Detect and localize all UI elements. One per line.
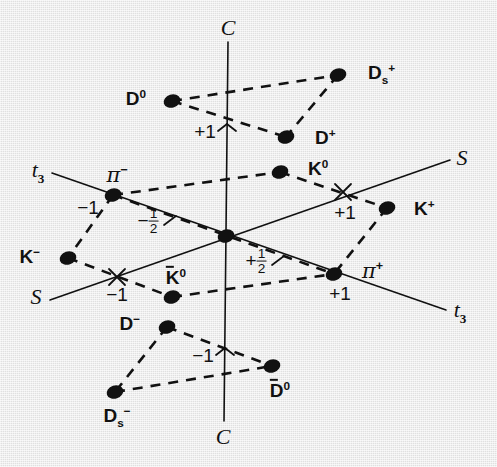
dashed-link-D--to-Ds-	[115, 327, 167, 392]
tick-label-s-minus-1: −1	[106, 285, 128, 304]
state-dot-K-[interactable]	[58, 249, 78, 267]
axis-end-label-s-left: S	[31, 286, 42, 308]
particle-label-K+: K+	[414, 198, 435, 218]
tick-label-t3-plus-1: +1	[329, 284, 351, 303]
state-dot-D+[interactable]	[276, 128, 296, 146]
state-dot-D0bar[interactable]	[262, 357, 282, 375]
particle-label-D0bar: D0	[270, 380, 290, 400]
dashed-link-K0bar-to-pi+	[172, 274, 334, 297]
state-dot-K+[interactable]	[377, 199, 397, 217]
axis-end-label-t3-right: t3	[454, 299, 467, 325]
su4-weight-diagram-figure: D0Ds+D+K0π−K−K+K0π+D−D0Ds−+1−1−1+1−1+1−1…	[0, 0, 497, 467]
state-dot-origin[interactable]	[216, 227, 236, 245]
tick-label-c-plus-1: +1	[194, 122, 216, 141]
diagram-canvas	[0, 0, 497, 467]
particle-label-D-: D−	[119, 313, 140, 333]
dashed-link-D0-to-Ds+	[172, 75, 338, 101]
tick-label-t3-plus-half: +12	[246, 248, 267, 277]
tick-mark-t3-minus-half	[164, 216, 176, 225]
tick-mark-t3-plus-half	[272, 256, 284, 265]
tick-label-c-minus-1: −1	[192, 346, 214, 365]
state-dot-D-[interactable]	[157, 318, 177, 336]
particle-label-Ds-: Ds−	[103, 405, 130, 429]
axis-lines-group	[50, 42, 450, 421]
particle-label-pi-: π−	[106, 164, 127, 186]
axis-end-label-c-bottom: C	[216, 426, 231, 448]
particle-label-D0: D0	[126, 88, 146, 108]
tick-label-t3-minus-half: −12	[138, 208, 159, 237]
state-dot-Ds+[interactable]	[328, 66, 348, 84]
axis-end-label-c-top: C	[221, 17, 236, 39]
particle-label-K-: K−	[19, 246, 40, 266]
dashed-link-Ds--to-D0bar	[115, 366, 272, 392]
tick-label-t3-minus-1: −1	[77, 198, 99, 217]
particle-label-K0: K0	[308, 158, 328, 178]
axis-end-label-s-right: S	[457, 147, 468, 169]
particle-label-D+: D+	[315, 127, 336, 147]
particle-label-K0bar: K0	[166, 267, 186, 287]
tick-label-s-plus-1: +1	[334, 203, 356, 222]
axis-end-label-t3-left: t3	[32, 159, 45, 185]
dashed-link-pi--to-K0	[113, 172, 280, 195]
state-dot-Ds-[interactable]	[105, 383, 125, 401]
particle-label-pi+: π+	[362, 260, 383, 282]
state-dot-K0[interactable]	[270, 163, 290, 181]
state-dot-K0bar[interactable]	[162, 288, 182, 306]
state-dot-D0[interactable]	[162, 92, 182, 110]
dashed-link-D0-to-D+	[172, 101, 286, 137]
particle-label-Ds+: Ds+	[368, 62, 395, 86]
state-dot-pi-[interactable]	[103, 186, 123, 204]
dashed-link-D--to-D0bar	[167, 327, 272, 366]
